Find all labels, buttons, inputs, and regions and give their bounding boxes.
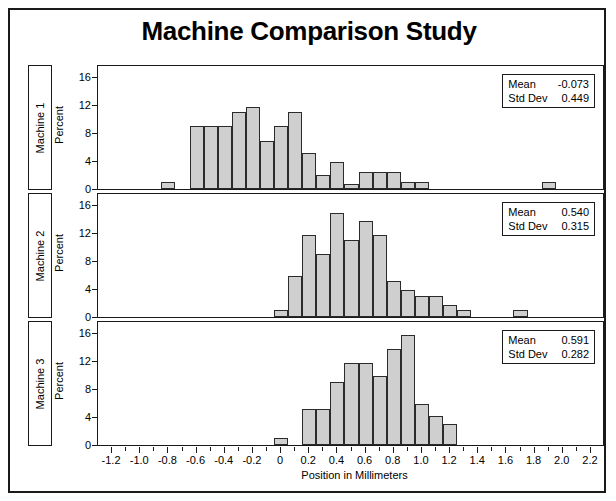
stats-key-stddev: Std Dev <box>508 347 561 361</box>
histogram-bar <box>415 404 429 445</box>
page-title: Machine Comparison Study <box>10 16 608 47</box>
histogram-bar <box>387 172 401 189</box>
x-axis-tick-mark <box>224 447 225 453</box>
histogram-bar <box>218 126 232 189</box>
histogram-bar <box>246 107 260 189</box>
x-axis-tick-label: 1.0 <box>413 454 428 466</box>
stats-row-stddev: Std Dev 0.449 <box>508 91 589 105</box>
x-axis-minor-tick-mark <box>407 447 408 451</box>
x-axis-minor-tick-mark <box>548 447 549 451</box>
histogram-bar <box>274 126 288 189</box>
x-axis-minor-tick-mark <box>210 447 211 451</box>
y-axis-title: Percent <box>53 362 65 400</box>
panel-machine-1: Mean -0.073 Std Dev 0.449 <box>97 65 604 190</box>
histogram-bar <box>401 290 415 317</box>
histogram-bar <box>274 310 288 317</box>
histogram-bar <box>288 112 302 189</box>
y-axis-tick-label: 12 <box>79 99 91 111</box>
x-axis-tick-label: -1.2 <box>102 454 121 466</box>
x-axis-tick-mark <box>505 447 506 453</box>
x-axis-tick-mark <box>196 447 197 453</box>
x-axis-minor-tick-mark <box>238 447 239 451</box>
panel-machine-2: Mean 0.540 Std Dev 0.315 <box>97 193 604 318</box>
stats-row-stddev: Std Dev 0.315 <box>508 219 589 233</box>
histogram-bar <box>302 153 316 189</box>
x-axis-minor-tick-mark <box>351 447 352 451</box>
x-axis-tick-label: -0.8 <box>158 454 177 466</box>
y-axis-title: Percent <box>53 234 65 272</box>
histogram-bar <box>401 182 415 189</box>
histogram-bar <box>161 182 175 189</box>
stats-key-mean: Mean <box>508 205 550 219</box>
histogram-bar <box>373 376 387 445</box>
histogram-bar <box>274 438 288 445</box>
x-axis-tick-label: 1.8 <box>526 454 541 466</box>
stats-row-mean: Mean 0.591 <box>508 333 589 347</box>
stats-value-stddev: 0.315 <box>561 219 589 233</box>
x-axis-minor-tick-mark <box>520 447 521 451</box>
x-axis-minor-tick-mark <box>435 447 436 451</box>
y-axis-tick-label: 8 <box>85 127 91 139</box>
histogram-bar <box>443 424 457 445</box>
y-axis-tick-label: 4 <box>85 155 91 167</box>
histogram-bar <box>330 382 344 445</box>
x-axis-tick-label: 1.4 <box>470 454 485 466</box>
strip-label-text: Machine 3 <box>34 358 46 409</box>
histogram-bar <box>316 254 330 317</box>
x-axis-minor-tick-mark <box>182 447 183 451</box>
y-axis-tick-label: 16 <box>79 71 91 83</box>
y-axis-machine-3: 0481216Percent <box>57 321 97 446</box>
histogram-bar <box>415 296 429 317</box>
histogram-bar <box>344 240 358 317</box>
x-axis-tick-mark <box>139 447 140 453</box>
histogram-bar <box>288 276 302 317</box>
strip-label-machine-2: Machine 2 <box>28 193 52 318</box>
y-axis-tick-label: 16 <box>79 199 91 211</box>
histogram-bar <box>359 221 373 317</box>
x-axis-tick-mark <box>534 447 535 453</box>
x-axis-tick-label: 1.6 <box>498 454 513 466</box>
histogram-bar <box>316 409 330 445</box>
histogram-bar <box>330 162 344 189</box>
x-axis-tick-mark <box>393 447 394 453</box>
y-axis-tick-label: 12 <box>79 355 91 367</box>
stats-row-mean: Mean -0.073 <box>508 77 589 91</box>
stats-key-stddev: Std Dev <box>508 219 561 233</box>
histogram-bar <box>387 281 401 317</box>
stats-row-stddev: Std Dev 0.282 <box>508 347 589 361</box>
stats-value-stddev: 0.282 <box>561 347 589 361</box>
stats-row-mean: Mean 0.540 <box>508 205 589 219</box>
histogram-bar <box>429 296 443 317</box>
histogram-bar <box>457 310 471 317</box>
x-axis-tick-mark <box>252 447 253 453</box>
histogram-bar <box>373 235 387 317</box>
x-axis-tick-mark <box>111 447 112 453</box>
histogram-bar <box>316 175 330 189</box>
stats-key-mean: Mean <box>508 333 550 347</box>
strip-label-text: Machine 2 <box>34 230 46 281</box>
histogram-bar <box>542 182 556 189</box>
y-axis-tick-label: 16 <box>79 327 91 339</box>
x-axis-tick-label: 1.2 <box>441 454 456 466</box>
x-axis-minor-tick-mark <box>491 447 492 451</box>
x-axis-tick-label: -0.2 <box>242 454 261 466</box>
x-axis-tick-label: -0.4 <box>214 454 233 466</box>
x-axis-tick-mark <box>421 447 422 453</box>
histogram-bar <box>373 172 387 189</box>
histogram-bar <box>513 310 527 317</box>
histogram-bar <box>232 112 246 189</box>
histogram-bar <box>302 409 316 445</box>
x-axis-tick-label: 0.6 <box>357 454 372 466</box>
x-axis-label: Position in Millimeters <box>105 469 604 481</box>
x-axis-minor-tick-mark <box>294 447 295 451</box>
stats-key-mean: Mean <box>508 77 550 91</box>
histogram-bar <box>429 416 443 445</box>
x-axis-tick-label: 0.4 <box>329 454 344 466</box>
x-axis-minor-tick-mark <box>125 447 126 451</box>
x-axis-tick-mark <box>365 447 366 453</box>
y-axis-tick-label: 4 <box>85 411 91 423</box>
chart-screenshot: Machine Comparison Study Machine 1 Machi… <box>0 0 616 501</box>
x-axis-minor-tick-mark <box>266 447 267 451</box>
histogram-bar <box>260 141 274 189</box>
histogram-bar <box>387 349 401 445</box>
